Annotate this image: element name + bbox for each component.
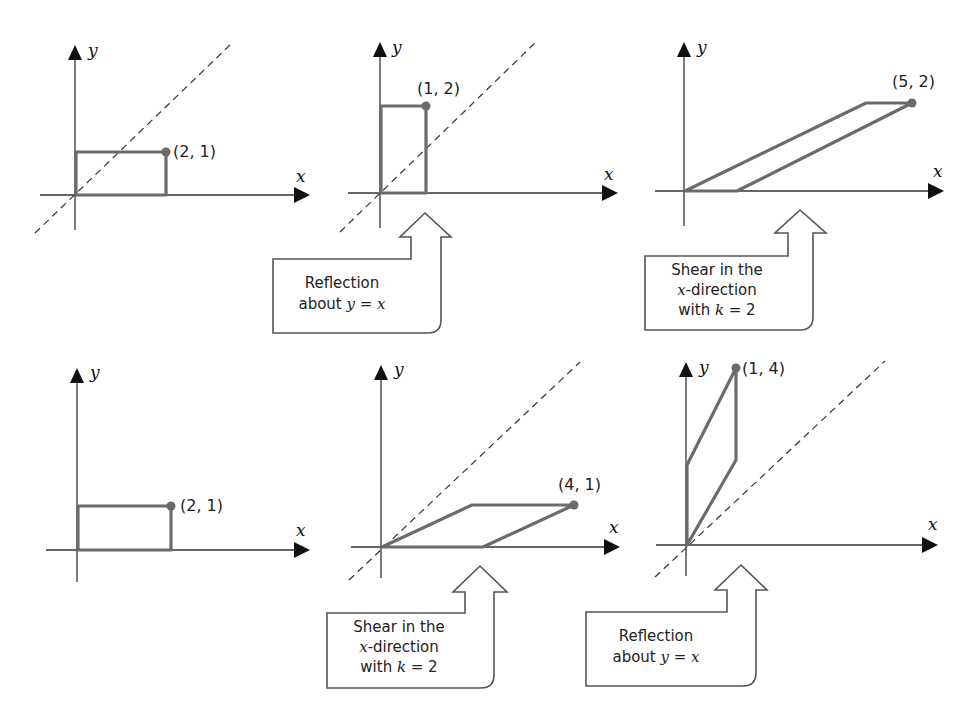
panel-bottom-3: y x (1, 4)	[655, 357, 938, 577]
x-axis-label: x	[296, 166, 306, 186]
y-axis-arrow-icon	[373, 42, 387, 57]
callout-line-1: Shear in the	[353, 618, 444, 636]
point-label: (2, 1)	[180, 496, 223, 515]
parallelogram-shape	[685, 103, 912, 191]
vertex-point	[908, 99, 917, 108]
vertex-point	[422, 102, 431, 111]
y-axis-label: y	[87, 40, 98, 60]
panel-top-2: y x (1, 2)	[340, 37, 618, 232]
y-axis-label: y	[89, 362, 100, 382]
vertex-point	[732, 364, 741, 373]
y-axis-label: y	[696, 37, 707, 57]
callout-line-1: Shear in the	[671, 261, 762, 279]
panel-bottom-2: y x (4, 1)	[349, 359, 620, 580]
y-axis-arrow-icon	[68, 45, 82, 60]
callout-line-2: about y = x	[612, 648, 700, 666]
callout-top-shear: Shear in the x-direction with k = 2	[645, 210, 826, 330]
y-axis-arrow-icon	[70, 368, 84, 383]
x-axis-label: x	[609, 517, 619, 537]
x-axis-arrow-icon	[922, 537, 938, 553]
y-axis-arrow-icon	[677, 42, 691, 57]
x-axis-arrow-icon	[602, 185, 618, 201]
callout-arrow-box	[586, 565, 767, 686]
callout-line-1: Reflection	[305, 274, 380, 292]
x-axis-label: x	[296, 520, 306, 540]
point-label: (2, 1)	[173, 142, 216, 161]
callout-line-3: with k = 2	[360, 658, 437, 676]
panel-top-3: y x (5, 2)	[655, 37, 944, 226]
callout-line-2: x-direction	[359, 638, 439, 656]
parallelogram-shape	[687, 368, 736, 545]
point-label: (4, 1)	[558, 475, 601, 494]
x-axis-arrow-icon	[294, 542, 310, 558]
x-axis-arrow-icon	[294, 187, 310, 203]
y-axis-arrow-icon	[374, 365, 388, 380]
callout-bottom-reflection: Reflection about y = x	[586, 565, 767, 686]
point-label: (5, 2)	[892, 72, 935, 91]
transformations-figure: y x (2, 1) y x (1, 2) y x (5, 2) y	[0, 0, 977, 719]
x-axis-label: x	[933, 161, 943, 181]
x-axis-label: x	[928, 514, 938, 534]
y-axis-arrow-icon	[679, 362, 693, 377]
callout-line-2: about y = x	[298, 295, 386, 313]
callout-line-1: Reflection	[619, 627, 694, 645]
panel-bottom-1: y x (2, 1)	[46, 362, 310, 582]
callout-top-reflection: Reflection about y = x	[273, 213, 451, 333]
callout-line-2: x-direction	[677, 281, 757, 299]
point-label: (1, 2)	[417, 79, 460, 98]
panel-top-1: y x (2, 1)	[35, 40, 310, 233]
callout-line-3: with k = 2	[678, 301, 755, 319]
parallelogram-shape	[382, 505, 574, 547]
line-y-equals-x	[340, 42, 536, 232]
rectangle-shape	[76, 152, 166, 195]
x-axis-label: x	[604, 164, 614, 184]
callout-bottom-shear: Shear in the x-direction with k = 2	[327, 566, 507, 688]
x-axis-arrow-icon	[604, 539, 620, 555]
y-axis-label: y	[391, 37, 402, 57]
point-label: (1, 4)	[742, 359, 785, 378]
vertex-point	[167, 502, 176, 511]
line-y-equals-x	[35, 44, 231, 233]
rectangle-shape	[78, 506, 171, 550]
x-axis-arrow-icon	[928, 183, 944, 199]
y-axis-label: y	[698, 357, 709, 377]
rectangle-shape	[381, 106, 426, 193]
y-axis-label: y	[393, 359, 404, 379]
vertex-point	[570, 501, 579, 510]
vertex-point	[162, 148, 171, 157]
callout-arrow-box	[273, 213, 451, 333]
